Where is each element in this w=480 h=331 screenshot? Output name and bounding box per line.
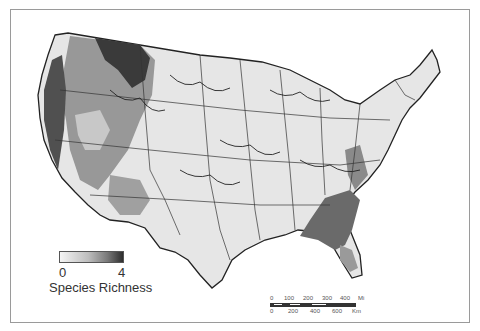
scale-bar-graphic: [270, 303, 356, 307]
scale-label: Mi: [358, 295, 364, 301]
scale-label: 100: [284, 295, 294, 301]
legend-gradient-bar: [59, 251, 124, 263]
legend-title: Species Richness: [49, 280, 152, 295]
scale-label: 400: [340, 295, 350, 301]
scale-label: 0: [270, 308, 273, 314]
scale-label: 600: [332, 308, 342, 314]
scale-label: 400: [310, 308, 320, 314]
scale-bar: 0 100 200 300 400 Mi 0 200 400 600 Km: [270, 295, 380, 315]
scale-label: 300: [322, 295, 332, 301]
scale-label: Km: [352, 308, 361, 314]
scale-label: 0: [270, 295, 273, 301]
legend-min-label: 0: [59, 265, 66, 280]
scale-label: 200: [303, 295, 313, 301]
scale-label: 200: [288, 308, 298, 314]
legend-max-label: 4: [118, 265, 125, 280]
